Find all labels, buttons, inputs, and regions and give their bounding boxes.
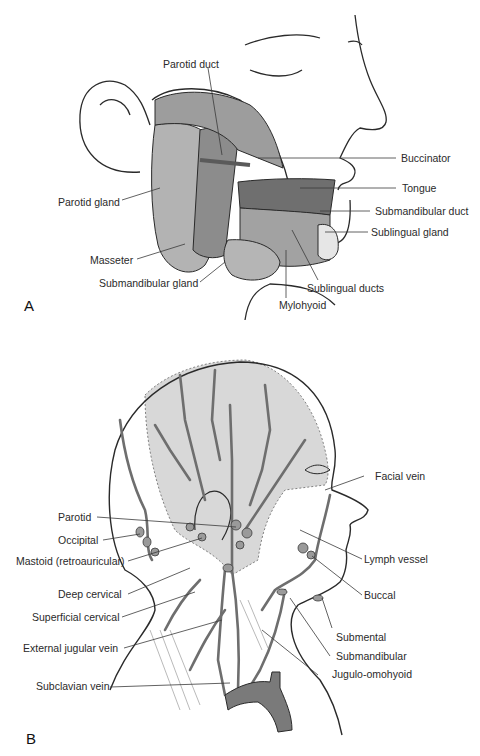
label-submandibular: Submandibular <box>336 650 407 662</box>
label-jugulo-omohyoid: Jugulo-omohyoid <box>332 668 412 680</box>
label-submandibular-duct: Submandibular duct <box>375 205 468 217</box>
label-sublingual-gland: Sublingual gland <box>371 226 449 238</box>
label-masseter: Masseter <box>90 254 133 266</box>
salivary-glands-illustration <box>0 0 480 330</box>
label-occipital: Occipital <box>58 534 98 546</box>
panel-a-salivary-glands: Parotid duct Buccinator Tongue Parotid g… <box>0 0 480 330</box>
label-superficial-cervical: Superficial cervical <box>32 611 120 623</box>
label-mylohyoid: Mylohyoid <box>279 299 326 311</box>
label-parotid-duct: Parotid duct <box>163 58 219 70</box>
label-mastoid-retroauricular: Mastoid (retroauricular) <box>16 555 125 567</box>
label-submental: Submental <box>336 631 386 643</box>
panel-letter-a: A <box>24 297 34 314</box>
label-parotid-gland: Parotid gland <box>58 196 120 208</box>
panel-letter-b: B <box>26 730 36 747</box>
label-submandibular-gland: Submandibular gland <box>99 277 198 289</box>
label-sublingual-ducts: Sublingual ducts <box>307 282 384 294</box>
label-buccinator: Buccinator <box>401 152 451 164</box>
label-deep-cervical: Deep cervical <box>58 588 122 600</box>
label-facial-vein: Facial vein <box>375 470 425 482</box>
label-buccal: Buccal <box>364 589 396 601</box>
label-external-jugular-vein: External jugular vein <box>23 642 118 654</box>
label-tongue: Tongue <box>402 182 436 194</box>
label-subclavian-vein: Subclavian vein <box>36 680 110 692</box>
panel-b-lymphatic-venous-drainage: Facial vein Parotid Occipital Mastoid (r… <box>0 330 480 756</box>
label-parotid: Parotid <box>58 511 91 523</box>
label-lymph-vessel: Lymph vessel <box>364 553 428 565</box>
